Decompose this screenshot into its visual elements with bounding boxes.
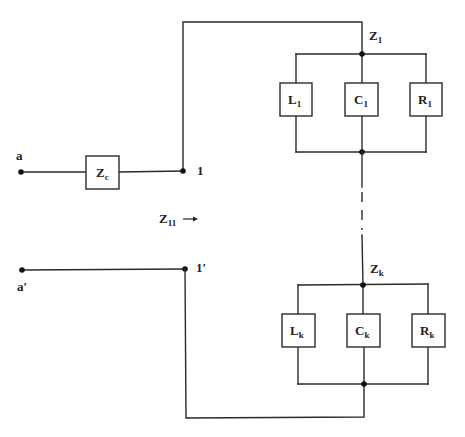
z1-subscript: 1 (378, 35, 383, 45)
svg-text:Zk: Zk (370, 261, 384, 278)
terminal-1-label: 1 (197, 163, 204, 178)
zk-subscript: k (379, 268, 384, 278)
z11-subscript: 11 (168, 218, 177, 228)
c1-label: C (354, 92, 363, 107)
capacitor-c1-box: C1 (345, 83, 378, 116)
series-link (362, 152, 363, 285)
resistor-r1-box: R1 (410, 83, 442, 116)
input-line-a-prime (22, 269, 185, 270)
zc-subscript: c (105, 172, 109, 182)
inductor-l1-box: L1 (280, 83, 312, 116)
terminal-a-label: a (16, 148, 23, 163)
ck-label: C (355, 323, 364, 338)
capacitor-ck-box: Ck (347, 314, 380, 347)
l1-label: L (288, 92, 297, 107)
rk-subscript: k (429, 330, 434, 340)
svg-text:Z11: Z11 (159, 211, 177, 228)
resistor-rk-box: Rk (412, 314, 445, 347)
z1-top-junction (359, 51, 365, 57)
svg-text:Z1: Z1 (369, 28, 383, 45)
top-feed-wire (183, 22, 362, 171)
z11-indicator: Z11 (159, 211, 198, 228)
z1-label: Z (369, 28, 378, 43)
terminal-a-node (18, 169, 24, 175)
terminal-a-prime-node (19, 267, 25, 273)
right-arrow-icon (183, 217, 198, 222)
z11-label: Z (159, 211, 168, 226)
ck-subscript: k (364, 330, 369, 340)
c1-subscript: 1 (363, 99, 368, 109)
inductor-lk-box: Lk (282, 314, 315, 347)
terminal-1-node (180, 168, 186, 174)
branch-z1: Z1 L1 C1 R1 (280, 28, 442, 155)
lk-subscript: k (299, 330, 304, 340)
r1-subscript: 1 (427, 99, 432, 109)
circuit-diagram: a Zc 1 Z11 a′ 1′ Z1 L1 (0, 0, 465, 437)
zc-label: Z (96, 165, 105, 180)
l1-subscript: 1 (297, 99, 302, 109)
zk-label: Z (370, 261, 379, 276)
zk-bottom-junction (361, 381, 367, 387)
impedance-zc-box: Zc (86, 156, 119, 189)
zk-top-junction (360, 282, 366, 288)
terminal-1-prime-label: 1′ (196, 260, 206, 275)
bottom-return-wire (185, 269, 364, 418)
lk-label: L (290, 323, 299, 338)
terminal-a-prime-label: a′ (17, 279, 27, 294)
